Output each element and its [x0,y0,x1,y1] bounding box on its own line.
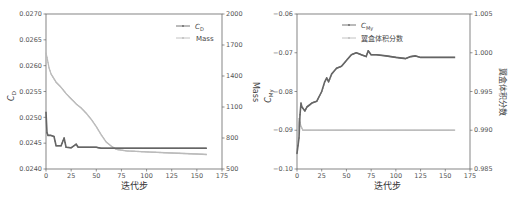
x-tick-label: 175 [464,172,476,180]
y-tick-label: 0.0270 [19,10,42,18]
y-right-tick-label: 0.995 [474,88,493,96]
x-tick-label: 125 [414,172,426,180]
x-tick-label: 100 [140,172,152,180]
y-tick-label: 0.0250 [19,114,42,122]
y-tick-label: −0.08 [273,88,293,96]
y-tick-label: −0.09 [273,126,293,134]
y-axis-right-ticks: 5008001100140017002000 [222,10,243,173]
y-axis-label-mass: Mass [251,82,260,102]
y-tick-label: 0.0245 [19,139,42,147]
x-tick-label: 0 [295,172,299,180]
y-tick-label: 0.0265 [19,36,42,44]
series-right [46,53,207,154]
y-axis-label-cd: CD [7,91,17,101]
figure: 0.02400.02450.02500.02550.02600.02650.02… [0,0,511,200]
legend-right: CMy 翼盒体积分数 [342,22,403,44]
x-tick-label: 75 [367,172,375,180]
y-tick-label: 0.0240 [19,165,42,173]
x-tick-label: 125 [166,172,178,180]
x-tick-label: 50 [92,172,100,180]
x-axis-ticks: 0255075100125150175 [295,169,476,180]
y-tick-label: −0.06 [273,10,293,18]
x-axis-ticks: 0255075100125150175 [44,169,228,180]
chart-right-cmy-volume: −0.10−0.09−0.08−0.07−0.06 0.9850.9900.99… [264,10,508,191]
legend-item-mass: Mass [196,35,214,43]
y-tick-label: 0.0260 [19,62,42,70]
y-right-tick-label: 0.985 [474,165,493,173]
x-tick-label: 150 [191,172,203,180]
legend-item-cd: CD [195,23,204,32]
series-lines [296,50,455,154]
series-lines [45,53,207,156]
y-axis-right-ticks: 0.9850.9900.9951.0001.005 [470,10,493,173]
y-right-tick-label: 1.000 [474,49,493,57]
y-right-tick-label: 1700 [226,41,243,49]
y-right-tick-label: 1400 [226,72,243,80]
y-right-tick-label: 1100 [226,103,243,111]
y-axis-left-ticks: 0.02400.02450.02500.02550.02600.02650.02… [19,10,46,173]
y-right-tick-label: 1.005 [474,10,493,18]
chart-left-cd-mass: 0.02400.02450.02500.02550.02600.02650.02… [7,10,260,191]
y-right-tick-label: 2000 [226,10,243,18]
chart-canvas: 0.02400.02450.02500.02550.02600.02650.02… [0,0,511,200]
x-tick-label: 150 [439,172,451,180]
legend-left: CD Mass [176,23,214,43]
x-tick-label: 50 [342,172,350,180]
y-axis-label-volume-fraction: 翼盒体积分数 [498,68,508,116]
y-axis-label-cmy: CMy [264,88,275,102]
y-tick-label: −0.10 [273,165,293,173]
x-axis-label: 迭代步 [121,180,148,191]
x-tick-label: 25 [318,172,326,180]
y-tick-label: 0.0255 [19,88,42,96]
x-tick-label: 25 [67,172,75,180]
y-right-tick-label: 800 [226,134,238,142]
series-left [46,112,207,148]
legend-item-cmy: CMy [361,22,373,32]
legend-item-volume-fraction: 翼盒体积分数 [361,34,403,43]
x-axis-label: 迭代步 [374,180,401,191]
x-tick-label: 175 [216,172,228,180]
y-tick-label: −0.07 [273,49,293,57]
y-right-tick-label: 0.990 [474,126,493,134]
y-axis-left-ticks: −0.10−0.09−0.08−0.07−0.06 [273,10,297,173]
series-left [297,51,455,154]
x-tick-label: 75 [117,172,125,180]
x-tick-label: 100 [390,172,402,180]
x-tick-label: 0 [44,172,48,180]
